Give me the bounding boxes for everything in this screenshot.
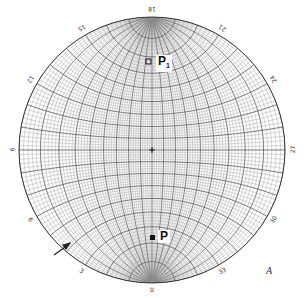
- pole-marker-lower-icon: [150, 235, 155, 240]
- rim-label: 9: [9, 145, 16, 155]
- stereonet-diagram: [0, 0, 305, 298]
- rim-label: 18: [147, 6, 157, 13]
- figure-letter: A: [266, 265, 272, 276]
- rim-label: 0: [147, 286, 157, 293]
- pole-label-p: P: [158, 230, 170, 243]
- rim-label: 27: [289, 145, 296, 155]
- pole-label-p1: P1: [156, 55, 172, 72]
